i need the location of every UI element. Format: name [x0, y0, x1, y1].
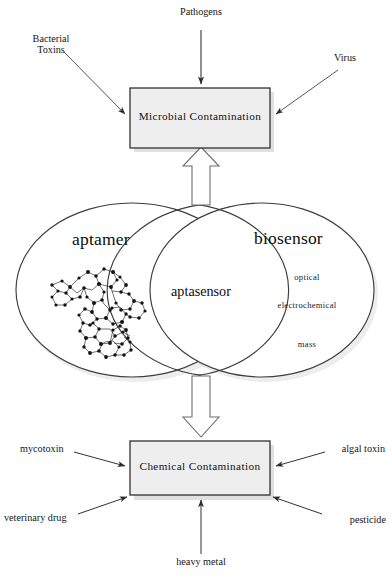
label-mycotoxin: mycotoxin	[20, 443, 82, 454]
label-biosensor-item-mass: mass	[264, 339, 350, 349]
label-pathogens: Pathogens	[158, 6, 244, 17]
arrow-bacterial-toxins	[64, 52, 125, 114]
diagram-canvas: Microbial Contamination Pathogens Bacter…	[0, 0, 391, 582]
label-biosensor: biosensor	[254, 228, 323, 249]
block-arrow-up	[183, 147, 219, 205]
arrow-virus	[276, 70, 338, 114]
microbial-contamination-label: Microbial Contamination	[130, 110, 270, 122]
block-arrow-down	[183, 376, 219, 437]
label-biosensor-item-optical: optical	[264, 272, 350, 282]
label-algal-toxin: algal toxin	[317, 443, 385, 454]
label-biosensor-item-electrochemical: electrochemical	[258, 300, 356, 310]
label-veterinary-drug: veterinary drug	[4, 512, 90, 523]
arrow-pesticide	[273, 497, 322, 514]
label-pesticide: pesticide	[322, 514, 386, 525]
label-bacterial-toxins: Bacterial Toxins	[14, 33, 88, 56]
label-heavy-metal: heavy metal	[160, 556, 242, 567]
label-aptasensor: aptasensor	[147, 283, 255, 300]
label-aptamer: aptamer	[72, 229, 130, 250]
chemical-contamination-label: Chemical Contamination	[130, 460, 270, 472]
label-virus: Virus	[316, 52, 374, 63]
